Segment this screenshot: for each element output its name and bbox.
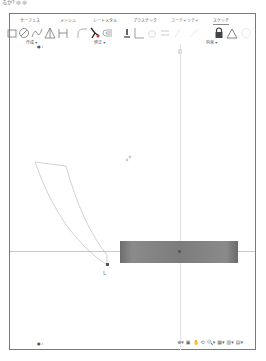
tab-sheet-metal[interactable]: シートメタル (93, 17, 117, 23)
trim-icon[interactable] (89, 24, 101, 36)
fusion-window: サーフェス メッシュ シートメタル プラスチック ユーティリティ スケッチ (9, 13, 256, 350)
origin-indicator: L (103, 269, 106, 276)
view-marker-bottom: ● ı (37, 341, 43, 346)
center-point[interactable] (178, 250, 181, 253)
parallel-icon[interactable] (172, 24, 184, 36)
tab-utilities[interactable]: ユーティリティ (171, 17, 199, 23)
spline-icon[interactable] (31, 24, 43, 36)
collinear-icon[interactable] (188, 24, 200, 36)
perpendicular-icon[interactable] (133, 24, 145, 36)
lock-icon[interactable] (213, 24, 225, 36)
triangle-constraint-icon[interactable] (226, 24, 238, 36)
tab-mesh[interactable]: メッシュ (60, 17, 76, 23)
circle-constraint-icon[interactable] (240, 24, 252, 36)
tangent-icon[interactable] (146, 24, 158, 36)
circle-icon[interactable] (18, 24, 30, 36)
display-settings-icon[interactable]: ▦▾ (217, 339, 224, 345)
coincident-icon[interactable] (121, 24, 133, 36)
sketch-point[interactable] (106, 263, 109, 266)
offset-icon[interactable] (101, 24, 113, 36)
pan-icon[interactable]: ✋ (193, 339, 199, 345)
zoom-icon[interactable]: 🔍▾ (207, 339, 216, 345)
rectangle-icon[interactable] (6, 24, 18, 36)
sketch-canvas[interactable]: ● ı L ● ı (10, 44, 255, 350)
window-caption: るか? ◎ ◎ (2, 0, 27, 5)
triangle-icon[interactable] (44, 24, 56, 36)
grid-settings-icon[interactable]: ▥▾ (227, 339, 234, 345)
tab-surface[interactable]: サーフェス (20, 17, 40, 23)
zoom-fit-icon[interactable]: ⟲ (201, 339, 205, 345)
sketch-profile[interactable] (10, 44, 257, 350)
look-at-icon[interactable]: ▣ (186, 339, 191, 345)
slot-icon[interactable] (57, 24, 69, 36)
navigation-bar: ⊕▾ ▣ ✋ ⟲ 🔍▾ ▦▾ ▥▾ ▤▾ (177, 339, 243, 345)
viewports-icon[interactable]: ▤▾ (236, 339, 243, 345)
ribbon-toolbar (10, 24, 255, 38)
tab-plastic[interactable]: プラスチック (133, 17, 157, 23)
equal-icon[interactable] (159, 24, 171, 36)
orbit-icon[interactable]: ⊕▾ (177, 339, 184, 345)
fillet-icon[interactable] (76, 24, 88, 36)
